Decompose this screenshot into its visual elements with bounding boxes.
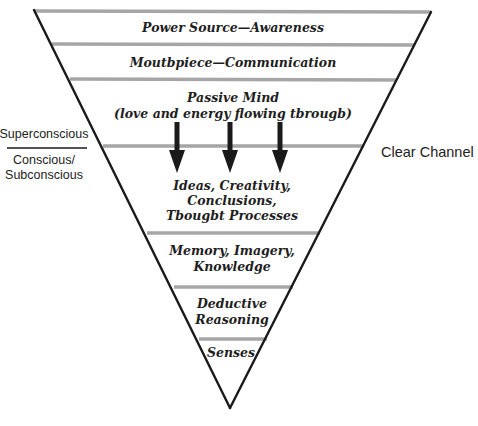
divider-top [34, 11, 431, 12]
divider-2 [70, 79, 397, 80]
layer-ideas-line1: Ideas, Creativity, [172, 178, 291, 193]
layer-mouthpiece: Moutbpiece—Communication [129, 55, 337, 70]
layer-memory-line2: Knowledge [192, 259, 270, 274]
layer-deductive-line2: Reasoning [194, 312, 269, 327]
mind-layers-diagram: Power Source—Awareness Moutbpiece—Commun… [0, 0, 478, 426]
layer-ideas-line2: Conclusions, [187, 193, 276, 208]
divider-1 [52, 44, 415, 45]
layer-deductive-line1: Deductive [196, 296, 267, 311]
layer-passive-mind-subtitle: (love and energy flowing tbrougb) [114, 106, 352, 121]
left-side-labels: Superconscious Conscious/ Subconscious [0, 127, 88, 182]
layer-senses: Senses [207, 345, 255, 360]
layer-memory-line1: Memory, Imagery, [168, 243, 295, 258]
layer-power-source: Power Source—Awareness [141, 20, 324, 35]
clear-channel-label: Clear Channel [381, 144, 474, 160]
subconscious-label: Subconscious [5, 168, 83, 182]
layer-ideas-line3: Tbougbt Processes [166, 208, 298, 223]
layer-labels: Power Source—Awareness Moutbpiece—Commun… [114, 20, 352, 360]
superconscious-label: Superconscious [0, 127, 88, 141]
layer-passive-mind-title: Passive Mind [186, 90, 279, 105]
conscious-label: Conscious/ [13, 153, 75, 167]
